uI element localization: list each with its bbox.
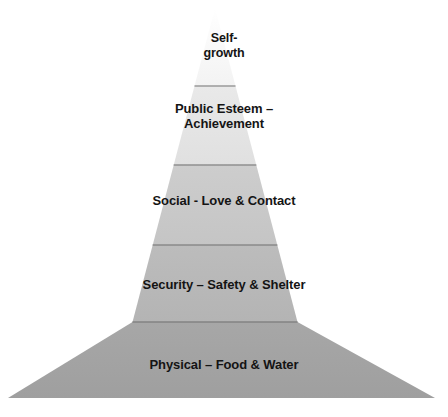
pyramid-tier-self-growth [195,8,236,86]
pyramid-tier-social [153,165,278,245]
pyramid-base-row [8,322,435,398]
pyramid-tier-public-esteem [174,86,257,165]
pyramid-diagram: Self- growth Public Esteem – Achievement… [0,0,448,417]
pyramid-shape [0,0,448,417]
pyramid-tier-security [133,245,298,322]
